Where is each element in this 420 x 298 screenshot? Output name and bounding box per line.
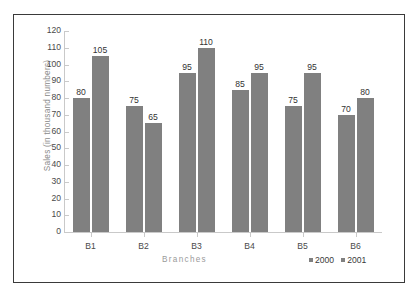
bar-b3-2000[interactable]: 95 [179, 73, 196, 232]
x-axis-label-b4: B4 [230, 241, 270, 251]
bar-value-label: 95 [307, 62, 317, 72]
legend-label: 2000 [315, 255, 334, 265]
y-axis-tick: 20 [65, 199, 69, 200]
bar-group: 7565 [126, 31, 162, 232]
bar-b6-2001[interactable]: 80 [357, 98, 374, 232]
x-axis-label-b3: B3 [177, 241, 217, 251]
bar-value-label: 80 [76, 87, 86, 97]
y-axis-tick-label: 110 [35, 42, 61, 52]
y-axis-tick-label: 0 [35, 226, 61, 236]
x-axis-label-b6: B6 [336, 241, 376, 251]
bar-b5-2000[interactable]: 75 [285, 106, 302, 232]
bar-group: 7595 [285, 31, 321, 232]
y-axis-tick-label: 120 [35, 25, 61, 35]
bar-value-label: 70 [341, 104, 351, 114]
y-axis-tick: 70 [65, 115, 69, 116]
y-axis-tick-label: 90 [35, 75, 61, 85]
bar-value-label: 65 [148, 112, 158, 122]
y-axis-tick-label: 60 [35, 126, 61, 136]
y-axis-tick: 80 [65, 98, 69, 99]
y-axis-tick-label: 20 [35, 193, 61, 203]
y-axis-tick: 50 [65, 148, 69, 149]
legend-item-2001[interactable]: 2001 [341, 255, 366, 265]
bar-value-label: 95 [182, 62, 192, 72]
chart-legend: 20002001 [309, 255, 366, 265]
bar-b4-2001[interactable]: 95 [251, 73, 268, 232]
y-axis-tick: 120 [65, 31, 69, 32]
x-axis-tick [91, 233, 92, 237]
y-axis-tick-label: 50 [35, 142, 61, 152]
y-axis-tick-label: 70 [35, 109, 61, 119]
bar-value-label: 95 [254, 62, 264, 72]
bar-value-label: 85 [235, 79, 245, 89]
y-axis-tick: 40 [65, 165, 69, 166]
bar-value-label: 110 [199, 37, 213, 47]
y-axis-tick: 110 [65, 48, 69, 49]
bar-group: 95110 [179, 31, 215, 232]
bar-b3-2001[interactable]: 110 [198, 48, 215, 232]
x-axis-tick [250, 233, 251, 237]
legend-item-2000[interactable]: 2000 [309, 255, 334, 265]
bar-value-label: 75 [288, 95, 298, 105]
y-axis-tick-label: 100 [35, 59, 61, 69]
x-axis-label-b5: B5 [283, 241, 323, 251]
y-axis-tick: 60 [65, 132, 69, 133]
bar-group: 8595 [232, 31, 268, 232]
legend-swatch-icon [309, 258, 313, 262]
y-axis-tick-label: 40 [35, 159, 61, 169]
x-axis-label-b1: B1 [71, 241, 111, 251]
x-axis-tick [303, 233, 304, 237]
bar-b1-2000[interactable]: 80 [73, 98, 90, 232]
y-axis-tick: 90 [65, 81, 69, 82]
legend-swatch-icon [341, 258, 345, 262]
x-axis-line [64, 232, 382, 233]
bar-b5-2001[interactable]: 95 [304, 73, 321, 232]
y-axis-tick: 30 [65, 182, 69, 183]
chart-figure-frame: Sales (in thousand numbers) 120110100908… [13, 14, 405, 283]
x-axis-tick [144, 233, 145, 237]
y-axis-tick-label: 80 [35, 92, 61, 102]
bar-b1-2001[interactable]: 105 [92, 56, 109, 232]
bar-group: 7080 [338, 31, 374, 232]
y-axis-tick: 10 [65, 215, 69, 216]
bar-b2-2000[interactable]: 75 [126, 106, 143, 232]
y-axis-tick: 100 [65, 65, 69, 66]
x-axis-tick [197, 233, 198, 237]
y-axis-tick-label: 10 [35, 209, 61, 219]
bar-value-label: 80 [360, 87, 370, 97]
bar-b6-2000[interactable]: 70 [338, 115, 355, 232]
x-axis-tick [356, 233, 357, 237]
bar-b2-2001[interactable]: 65 [145, 123, 162, 232]
bar-group: 80105 [73, 31, 109, 232]
y-axis-tick-label: 30 [35, 176, 61, 186]
plot-area: 1201101009080706050403020100 80105756595… [64, 31, 382, 233]
x-axis-title: Branches [162, 255, 207, 264]
bar-b4-2000[interactable]: 85 [232, 90, 249, 232]
x-axis-label-b2: B2 [124, 241, 164, 251]
bar-value-label: 75 [129, 95, 139, 105]
y-axis-tick: 0 [65, 232, 69, 233]
legend-label: 2001 [347, 255, 366, 265]
bar-value-label: 105 [93, 45, 107, 55]
